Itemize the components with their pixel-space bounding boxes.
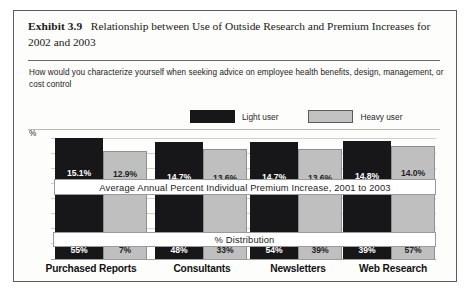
bar-value-premium: 15.1% — [55, 168, 103, 178]
legend-label-light-user: Light user — [242, 112, 278, 122]
exhibit-question: How would you characterize yourself when… — [29, 67, 447, 90]
category-label-consultants: Consultants — [154, 263, 250, 274]
legend-swatch-light-user — [190, 110, 235, 123]
x-axis-category-labels: Purchased Reports Consultants Newsletter… — [28, 263, 440, 274]
exhibit-label: Exhibit 3.9 — [28, 20, 82, 32]
annotation-band-premium: Average Annual Percent Individual Premiu… — [54, 179, 436, 195]
chart-legend: Light user Heavy user — [190, 110, 402, 123]
exhibit-title-text: Relationship between Use of Outside Rese… — [28, 20, 430, 48]
annotation-band-distribution: % Distribution — [53, 232, 436, 247]
legend-label-heavy-user: Heavy user — [360, 112, 402, 122]
category-label-newsletters: Newsletters — [250, 263, 346, 274]
category-label-purchased-reports: Purchased Reports — [28, 263, 154, 274]
title-divider — [28, 60, 440, 61]
legend-item-light-user: Light user — [190, 110, 278, 123]
exhibit-frame: Exhibit 3.9 Relationship between Use of … — [13, 10, 457, 282]
x-axis-line — [51, 259, 436, 260]
category-label-web-research: Web Research — [346, 263, 440, 274]
legend-item-heavy-user: Heavy user — [308, 110, 402, 123]
bar-value-premium: 12.9% — [104, 169, 146, 179]
y-axis-unit-label: % — [29, 128, 36, 138]
exhibit-title: Exhibit 3.9 Relationship between Use of … — [28, 19, 438, 50]
legend-swatch-heavy-user — [308, 110, 353, 123]
legend-divider — [28, 129, 440, 130]
bar-value-premium: 14.0% — [392, 168, 434, 178]
